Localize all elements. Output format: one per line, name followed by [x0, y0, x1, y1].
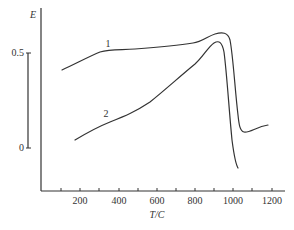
scale-top-label: 0.5 [12, 47, 25, 58]
x-tick-label: 800 [188, 195, 203, 206]
curve-2-label: 2 [104, 108, 109, 119]
x-tick-label: 1200 [262, 195, 282, 206]
curve-1-label: 1 [106, 38, 111, 49]
y-axis-label: E [29, 9, 36, 20]
curve-2 [75, 42, 238, 168]
x-axis-label: T/C [149, 209, 164, 220]
chart: 200 400 600 800 1000 1200 T/C E 0.5 0 1 … [0, 0, 294, 230]
x-tick-label: 1000 [223, 195, 243, 206]
x-tick-label: 200 [73, 195, 88, 206]
curve-1 [62, 33, 268, 132]
scale-bottom-label: 0 [19, 142, 24, 153]
x-tick-label: 400 [112, 195, 127, 206]
x-tick-label: 600 [150, 195, 165, 206]
